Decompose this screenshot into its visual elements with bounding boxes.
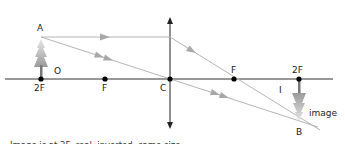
label-2f-left: 2F — [34, 83, 45, 93]
point-f-right — [231, 76, 236, 81]
label-2f-right: 2F — [292, 65, 303, 75]
point-c — [167, 76, 172, 81]
label-i: I — [279, 85, 282, 95]
label-f-left: F — [102, 83, 107, 93]
image-tree — [292, 79, 306, 121]
label-image: image — [309, 108, 337, 118]
label-a: A — [37, 23, 44, 33]
point-f-left — [102, 76, 107, 81]
label-f-right: F — [231, 65, 236, 75]
point-2f-left — [38, 76, 43, 81]
object-tree — [34, 39, 48, 79]
point-2f-right — [296, 76, 301, 81]
ray-diagram: A O 2F F C F 2F I image B Image is at 2F… — [0, 0, 345, 144]
lens — [167, 17, 173, 129]
label-b: B — [296, 127, 302, 137]
caption: Image is at 2F, real, inverted, same siz… — [10, 140, 180, 144]
lens-top-arrow-icon — [167, 17, 173, 24]
label-o: O — [54, 66, 61, 76]
lens-bottom-arrow-icon — [167, 122, 173, 129]
label-c: C — [160, 83, 166, 93]
ray-parallel — [41, 34, 320, 131]
ray-through-center — [41, 37, 318, 127]
